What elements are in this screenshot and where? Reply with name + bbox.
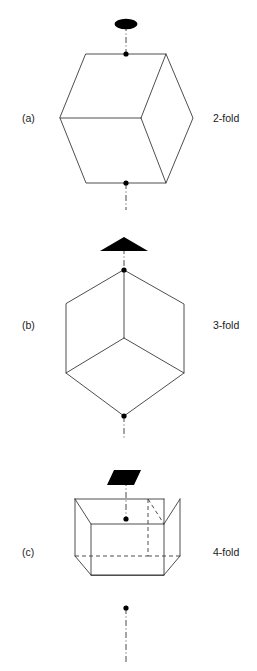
- cube-hidden-connector: [148, 499, 164, 524]
- axis-dot-top: [123, 51, 128, 56]
- axis-dot-bottom: [121, 413, 126, 418]
- cube-internal-edge-lower: [141, 118, 166, 183]
- axis-dot-top: [123, 516, 128, 521]
- cube-outline: [60, 54, 193, 183]
- cube-outline: [75, 499, 180, 575]
- cube-connector-bottom-right: [164, 556, 180, 575]
- axis-dot-bottom: [123, 180, 128, 185]
- axis-label-c: 4-fold: [213, 546, 239, 558]
- panel-b-3-fold: (b) 3-fold: [22, 237, 239, 440]
- square-icon: [107, 470, 141, 485]
- figure-rotation-axes-of-a-cube: (a) 2-fold (b) 3-fold: [0, 0, 257, 671]
- panel-label-b: (b): [22, 319, 35, 331]
- cube-outline: [66, 270, 184, 416]
- cube-front-face: [91, 524, 164, 575]
- lens-icon: [115, 19, 138, 29]
- cube-hexagon-outline: [60, 54, 193, 183]
- triangle-icon: [100, 237, 148, 251]
- cube-connector-top-left: [75, 499, 91, 524]
- axis-dot-top: [121, 267, 126, 272]
- cube-internal-edge-lower-left: [66, 338, 124, 373]
- panel-label-c: (c): [22, 546, 34, 558]
- panel-label-a: (a): [22, 112, 35, 124]
- panel-a-2-fold: (a) 2-fold: [22, 19, 239, 210]
- cube-connector-bottom-left: [75, 556, 91, 575]
- figure-canvas: (a) 2-fold (b) 3-fold: [0, 0, 257, 671]
- cube-hexagon-outline: [66, 270, 184, 416]
- cube-internal-edge-upper: [141, 54, 166, 118]
- axis-label-b: 3-fold: [213, 319, 239, 331]
- axis-dot-bottom: [123, 605, 128, 610]
- panel-c-4-fold: (c) 4-fold: [22, 470, 239, 662]
- cube-internal-edge-lower-right: [124, 338, 184, 373]
- axis-label-a: 2-fold: [213, 112, 239, 124]
- cube-connector-top-right: [164, 499, 180, 524]
